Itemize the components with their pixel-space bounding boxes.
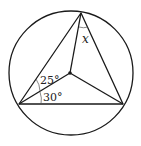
angle-label-25: 25° — [40, 74, 60, 87]
angle-arc-x — [79, 27, 88, 28]
geometry-diagram: x 25° 30° — [0, 0, 141, 146]
radius-to-right-vertex — [70, 73, 123, 104]
angle-label-30: 30° — [43, 91, 63, 104]
angle-label-x: x — [82, 32, 89, 46]
angle-arc-30 — [40, 92, 41, 104]
inscribed-triangle — [19, 13, 123, 104]
center-point — [68, 71, 72, 75]
